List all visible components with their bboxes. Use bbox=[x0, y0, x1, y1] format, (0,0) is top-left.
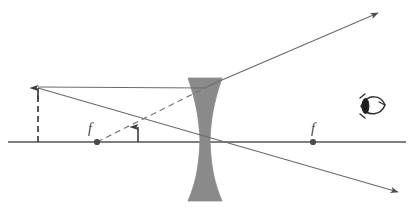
ray-parallel-incident bbox=[38, 87, 206, 88]
optics-svg: f f bbox=[0, 0, 415, 208]
focal-point-left bbox=[94, 139, 100, 145]
focal-point-right bbox=[310, 139, 316, 145]
observer-eye-icon bbox=[360, 94, 385, 118]
focal-label-left: f bbox=[88, 121, 94, 136]
focal-label-right: f bbox=[311, 121, 317, 136]
ray-diagram-canvas: f f bbox=[0, 0, 415, 208]
ray-through-center[interactable] bbox=[38, 88, 398, 192]
ray-parallel-refracted[interactable] bbox=[208, 13, 378, 86]
